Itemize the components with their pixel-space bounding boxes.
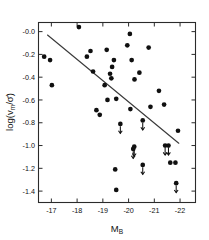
data-point-marker [42,54,47,59]
data-point-marker [97,112,102,117]
upper-limit-marker [140,163,145,168]
y-tick-label: -0.6 [23,96,35,105]
data-point-marker [114,96,119,101]
x-tick-label: -20 [123,206,133,215]
data-point-marker [114,188,119,193]
data-point-marker [110,65,115,70]
data-point-marker [128,107,133,112]
data-point-marker [88,49,93,54]
x-tick-label: -21 [149,206,159,215]
data-point-marker [112,58,117,63]
data-point-marker [148,104,153,109]
y-tick-label: -1.4 [23,187,35,196]
data-point-marker [113,167,118,172]
data-point-marker [176,128,181,133]
data-point-marker [94,108,99,113]
data-point-marker [105,98,110,103]
y-tick-label: -0.4 [23,73,35,82]
data-point-marker [128,32,133,37]
data-point-marker [104,47,109,52]
y-tick-label: -0.2 [23,50,35,59]
data-point-marker [137,70,142,75]
data-point-marker [146,45,151,50]
data-point-marker [91,69,96,74]
data-point-marker [109,76,114,81]
x-tick-label: -17 [46,206,56,215]
data-point-marker [168,160,173,165]
data-point-marker [108,71,113,76]
y-tick-label: -1.0 [23,141,35,150]
upper-limit-marker [174,181,179,186]
data-point-marker [102,83,107,88]
data-point-marker [50,83,55,88]
upper-limit-marker [140,118,145,123]
upper-limit-marker [131,147,136,152]
figure-container: -17-18-19-20-21-22 -0.0-0.2-0.4-0.6-0.8-… [0,0,209,240]
y-tick-label: -1.2 [23,164,35,173]
x-axis-title: MB [111,223,124,235]
y-axis-title: log(vm/σ̄) [4,93,16,131]
data-point-marker [77,25,82,30]
upper-limit-marker [118,122,123,127]
plot-frame [39,23,196,203]
x-tick-label: -22 [175,206,185,215]
x-tick-label: -18 [72,206,82,215]
upper-limit-points [118,118,179,193]
data-point-marker [157,89,162,94]
data-point-marker [48,58,53,63]
data-point-marker [132,77,137,82]
data-point-marker [85,54,90,59]
data-point-marker [125,43,130,48]
data-points [42,25,181,193]
y-tick-label: -0.8 [23,118,35,127]
data-point-marker [129,58,134,63]
x-tick-label: -19 [98,206,108,215]
upper-limit-marker [166,143,171,148]
data-point-marker [162,102,167,107]
y-tick-label: -0.0 [23,27,35,36]
y-axis-ticks: -0.0-0.2-0.4-0.6-0.8-1.0-1.2-1.4 [23,27,196,195]
data-point-marker [173,160,178,165]
scatter-chart: -17-18-19-20-21-22 -0.0-0.2-0.4-0.6-0.8-… [0,0,209,240]
